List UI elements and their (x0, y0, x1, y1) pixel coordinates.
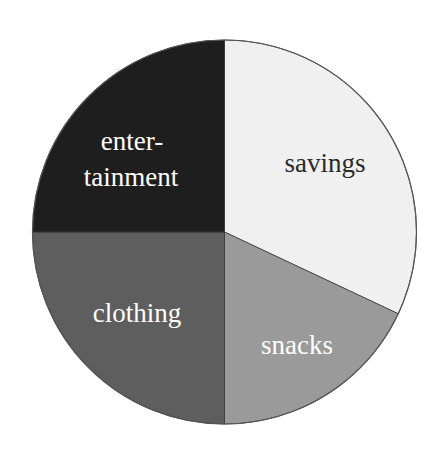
label-entertainment-line2: tainment (84, 162, 179, 192)
pie-slices (33, 40, 417, 424)
pie-chart: savings snacks clothing enter- tainment (0, 0, 437, 457)
label-savings: savings (285, 148, 366, 178)
label-entertainment-line1: enter- (101, 126, 163, 156)
pie-slice-clothing (33, 232, 225, 424)
label-snacks: snacks (261, 330, 333, 360)
label-clothing: clothing (93, 298, 182, 328)
